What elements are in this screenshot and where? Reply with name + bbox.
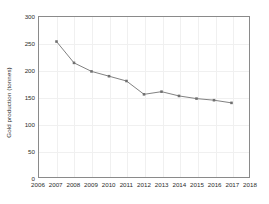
y-axis-tick-labels: 050100150200250300 [14,0,35,204]
x-tick-label: 2009 [84,181,98,188]
x-tick-label: 2013 [155,181,169,188]
data-point-marker [143,93,146,96]
x-tick-label: 2012 [137,181,151,188]
x-tick-label: 2007 [49,181,63,188]
data-point-marker [125,80,128,83]
y-axis-title-text: Gold production (tonnes) [5,67,12,138]
data-point-marker [73,62,76,65]
gold-production-line-chart: Gold production (tonnes) 050100150200250… [0,0,269,204]
data-point-marker [195,97,198,100]
x-axis-tick-labels: 2006200720082009201020112012201320142015… [38,181,250,195]
plot-area [38,16,250,178]
x-tick-label: 2006 [31,181,45,188]
x-tick-label: 2016 [208,181,222,188]
y-tick-label: 50 [14,148,35,155]
x-tick-label: 2018 [243,181,257,188]
data-point-marker [55,40,58,43]
x-tick-label: 2011 [120,181,133,188]
series-line-gold-production [39,17,249,177]
data-point-marker [178,95,181,98]
y-tick-label: 250 [14,40,35,47]
data-point-marker [90,70,93,73]
y-tick-label: 150 [14,94,35,101]
x-tick-label: 2014 [172,181,186,188]
data-point-marker [230,102,233,105]
y-tick-label: 300 [14,13,35,20]
y-tick-label: 200 [14,67,35,74]
x-tick-label: 2010 [102,181,116,188]
x-tick-label: 2008 [66,181,80,188]
data-point-marker [108,75,111,78]
data-point-marker [160,90,163,93]
x-tick-label: 2015 [190,181,204,188]
y-tick-label: 100 [14,121,35,128]
x-tick-label: 2017 [225,181,239,188]
data-point-marker [213,99,216,102]
